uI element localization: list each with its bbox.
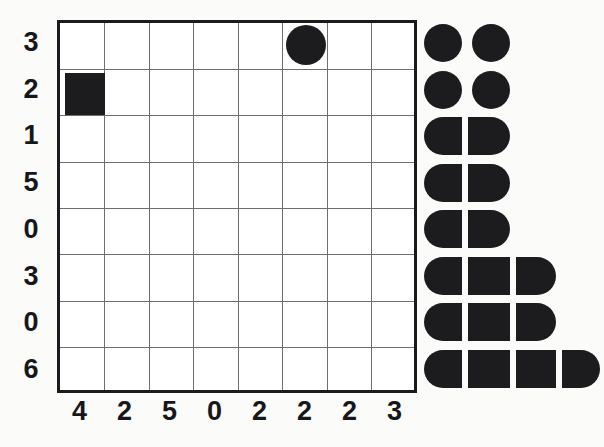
bar-segment bbox=[468, 117, 510, 155]
bar-segment bbox=[468, 257, 510, 295]
y-tick-label: 3 bbox=[14, 29, 48, 56]
figure-canvas: 3 2 1 5 0 3 0 6 4 2 5 0 2 2 2 3 bbox=[0, 0, 604, 447]
bar-segment bbox=[516, 303, 556, 341]
grid-line-horizontal bbox=[60, 301, 414, 302]
y-tick-label: 3 bbox=[14, 263, 48, 290]
grid-line-vertical bbox=[238, 23, 239, 390]
bar-segment bbox=[516, 350, 556, 388]
bar-segment bbox=[472, 71, 510, 109]
bar-segment bbox=[468, 303, 510, 341]
bar-segment bbox=[468, 350, 510, 388]
y-tick-label: 0 bbox=[14, 309, 48, 336]
bar-chart bbox=[424, 20, 596, 393]
x-tick-label: 0 bbox=[192, 398, 237, 425]
bar-segment bbox=[468, 164, 510, 202]
grid-line-vertical bbox=[193, 23, 194, 390]
grid-line-vertical bbox=[149, 23, 150, 390]
bar-segment bbox=[424, 257, 462, 295]
grid-line-horizontal bbox=[60, 162, 414, 163]
x-tick-label: 2 bbox=[327, 398, 372, 425]
grid-plot-area bbox=[57, 20, 417, 393]
y-tick-label: 0 bbox=[14, 216, 48, 243]
grid-line-horizontal bbox=[60, 69, 414, 70]
y-tick-label: 1 bbox=[14, 122, 48, 149]
x-tick-label: 2 bbox=[282, 398, 327, 425]
grid-line-horizontal bbox=[60, 254, 414, 255]
grid-lines bbox=[60, 23, 414, 390]
grid-line-vertical bbox=[327, 23, 328, 390]
bar-segment bbox=[424, 210, 462, 248]
bar-segment bbox=[468, 210, 510, 248]
x-tick-label: 3 bbox=[372, 398, 417, 425]
bar-segment bbox=[516, 257, 556, 295]
bar-segment bbox=[424, 117, 462, 155]
filled-circle-marker bbox=[286, 25, 326, 65]
grid-line-vertical bbox=[371, 23, 372, 390]
bar-segment bbox=[424, 71, 462, 109]
bar-segment bbox=[424, 350, 462, 388]
x-tick-label: 4 bbox=[57, 398, 102, 425]
grid-line-horizontal bbox=[60, 347, 414, 348]
bar-segment bbox=[424, 303, 462, 341]
x-tick-label: 2 bbox=[237, 398, 282, 425]
x-tick-label: 2 bbox=[102, 398, 147, 425]
grid-line-vertical bbox=[282, 23, 283, 390]
bar-segment bbox=[424, 164, 462, 202]
y-tick-label: 2 bbox=[14, 76, 48, 103]
y-tick-label: 6 bbox=[14, 356, 48, 383]
filled-square-marker bbox=[65, 73, 105, 115]
bar-segment bbox=[424, 24, 462, 62]
bar-segment bbox=[562, 350, 600, 388]
grid-line-horizontal bbox=[60, 115, 414, 116]
bar-segment bbox=[472, 24, 510, 62]
y-tick-label: 5 bbox=[14, 169, 48, 196]
x-tick-label: 5 bbox=[147, 398, 192, 425]
grid-line-horizontal bbox=[60, 208, 414, 209]
